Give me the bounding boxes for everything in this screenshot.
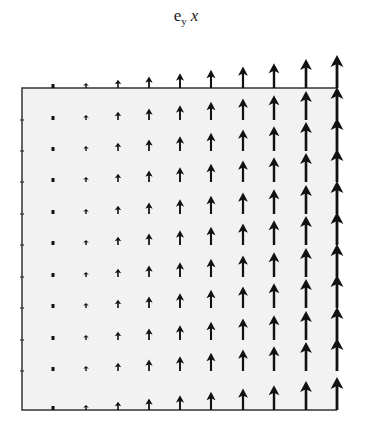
vector-arrow [206,70,215,88]
vector-arrow [52,210,55,214]
vector-arrow [300,59,312,88]
vector-field-plot [0,0,372,433]
vector-arrow [52,336,55,340]
vector-arrow [52,241,55,245]
vector-arrow [269,63,280,88]
vector-arrow [331,55,344,88]
vector-arrow [52,147,55,151]
vector-arrow [52,84,55,88]
vector-arrow [52,178,55,182]
vector-arrow [115,80,122,88]
vector-arrow [52,367,55,371]
vector-arrow [52,406,55,410]
vector-arrow [238,67,248,88]
vector-arrow [52,273,55,277]
vector-arrow [176,73,184,88]
vector-arrow [52,116,55,120]
vector-arrow [145,76,152,88]
vector-arrow [52,304,55,308]
